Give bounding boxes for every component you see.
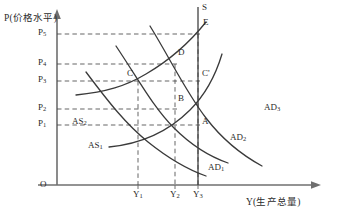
y-tick-p1: P1 <box>38 119 46 129</box>
ad-curve-1 <box>86 72 206 176</box>
origin-label: O <box>40 180 47 189</box>
point-label-c: C <box>127 69 133 78</box>
x-axis-title: Y(生产总量) <box>246 198 301 208</box>
curve-label-as1: AS1 <box>88 141 103 151</box>
x-tick-y2: Y2 <box>170 190 180 200</box>
point-label-a: A <box>202 117 209 126</box>
ad-as-diagram: P(价格水平) Y(生产总量) O P5 P4 P3 P2 P1 Y1 Y2 Y… <box>0 0 344 219</box>
point-label-b: B <box>178 94 184 103</box>
curve-label-ad3: AD3 <box>264 103 280 113</box>
x-axis-arrow <box>311 181 321 189</box>
point-label-c-prime: C' <box>202 69 210 78</box>
curve-label-ad1: AD1 <box>208 163 224 173</box>
aggregate-supply-curves <box>76 22 222 147</box>
y-tick-p4: P4 <box>38 58 46 68</box>
plot-canvas <box>0 0 344 219</box>
ad-curve-3 <box>150 26 262 166</box>
curve-label-ad2: AD2 <box>230 133 246 143</box>
x-tick-y3: Y3 <box>193 190 203 200</box>
y-tick-p5: P5 <box>38 28 46 38</box>
y-axis-title: P(价格水平) <box>4 14 57 24</box>
y-tick-p3: P3 <box>38 75 46 85</box>
point-label-d: D <box>178 48 185 57</box>
aggregate-demand-curves <box>86 26 262 176</box>
curve-label-as2: AS2 <box>72 117 87 127</box>
x-tick-y1: Y1 <box>133 190 143 200</box>
curve-label-s: S <box>202 3 207 12</box>
point-label-e: E <box>203 18 209 27</box>
y-tick-p2: P2 <box>38 103 46 113</box>
